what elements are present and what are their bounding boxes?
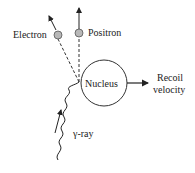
electron-track bbox=[58, 39, 79, 82]
electron-arrow bbox=[49, 16, 56, 30]
positron-particle bbox=[75, 29, 83, 37]
positron-label: Positron bbox=[88, 27, 121, 38]
recoil-label-line1: Recoil bbox=[157, 72, 183, 83]
gamma-ray-wave bbox=[57, 82, 79, 160]
gamma-ray-label: γ-ray bbox=[73, 128, 94, 139]
electron-particle bbox=[54, 31, 62, 39]
electron-label: Electron bbox=[13, 29, 47, 40]
recoil-label-line2: velocity bbox=[153, 84, 185, 95]
gamma-direction-arrow bbox=[55, 110, 61, 133]
nucleus-label: Nucleus bbox=[85, 78, 118, 89]
